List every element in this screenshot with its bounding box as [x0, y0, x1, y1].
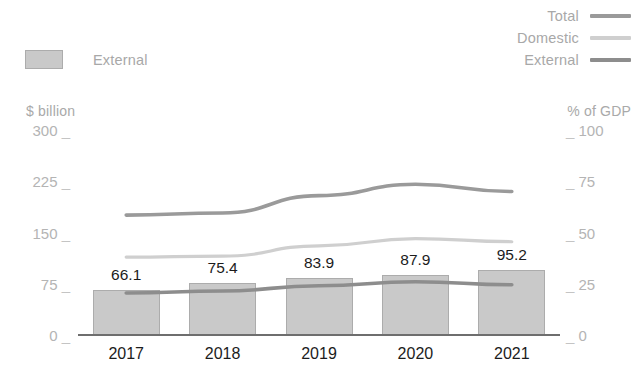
legend-swatch-external-bar	[25, 50, 63, 69]
line-series-domestic	[126, 239, 512, 257]
legend-swatch-total-line	[590, 14, 631, 18]
x-label-2021: 2021	[494, 345, 530, 363]
left-tick-75: 75 _	[41, 276, 70, 291]
right-tick-50: _ 50	[566, 225, 595, 240]
line-series-external	[126, 282, 512, 293]
legend-item-domestic: Domestic	[517, 28, 631, 48]
plot-area: 300 _225 _150 _75 _0 _ _ 100_ 75_ 50_ 25…	[78, 130, 560, 335]
left-axis-title: $ billion	[26, 103, 75, 119]
legend-label-external-bar: External	[93, 52, 148, 68]
legend-lines: Total Domestic External	[517, 6, 631, 70]
right-axis-title: % of GDP	[567, 103, 631, 119]
legend-label-total: Total	[547, 8, 579, 24]
left-tick-225: 225 _	[32, 174, 70, 189]
right-tick-100: _ 100	[566, 123, 604, 138]
chart-container: Total Domestic External External $ billi…	[0, 0, 639, 388]
legend-item-external-line: External	[517, 50, 631, 70]
x-label-2018: 2018	[205, 345, 241, 363]
right-tick-0: _ 0	[566, 328, 587, 343]
legend-swatch-external-line	[590, 58, 631, 62]
left-tick-150: 150 _	[32, 225, 70, 240]
legend-item-total: Total	[517, 6, 631, 26]
line-series-total	[126, 184, 512, 215]
x-label-2019: 2019	[301, 345, 337, 363]
x-axis-baseline	[78, 334, 560, 336]
legend-label-external-line: External	[524, 52, 579, 68]
legend-item-external-bar: External	[25, 50, 148, 69]
right-tick-25: _ 25	[566, 276, 595, 291]
right-tick-75: _ 75	[566, 174, 595, 189]
x-label-2017: 2017	[108, 345, 144, 363]
legend-label-domestic: Domestic	[517, 30, 579, 46]
left-tick-300: 300 _	[32, 123, 70, 138]
x-label-2020: 2020	[398, 345, 434, 363]
left-tick-0: 0 _	[49, 328, 70, 343]
line-series-group	[78, 130, 560, 335]
legend-swatch-domestic-line	[590, 36, 631, 40]
x-axis-labels: 20172018201920202021	[78, 345, 560, 373]
